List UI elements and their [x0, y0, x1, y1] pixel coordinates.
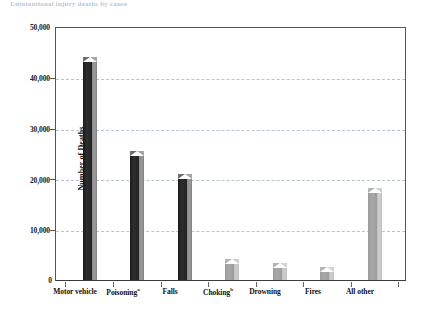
bar-front-face — [273, 268, 282, 280]
ytick-label-10000: 10,000 — [6, 226, 50, 235]
bar-side-face — [92, 62, 97, 281]
xcat-text: Falls — [162, 287, 177, 296]
ytick-mark-40000 — [50, 78, 55, 79]
gridline-40000 — [56, 79, 405, 80]
bar-front-face — [368, 193, 377, 280]
bar-side-face — [187, 179, 192, 280]
plot-area: Number of Deaths — [55, 27, 406, 281]
bar-side-face — [282, 268, 287, 280]
bar-front-face — [178, 179, 187, 280]
bar-side-face — [329, 272, 334, 280]
xcat-text: Choking — [203, 288, 230, 297]
ytick-mark-30000 — [50, 129, 55, 130]
xcat-label-all-other: All other — [324, 287, 396, 296]
ytick-label-50000: 50,000 — [6, 23, 50, 32]
xcat-text: All other — [346, 287, 374, 296]
gridline-10000 — [56, 231, 405, 232]
chart-figure: Unintentional injury deaths by cause — [0, 0, 426, 319]
bar-side-face — [234, 264, 239, 280]
bar-front-face — [130, 156, 139, 280]
xtick-7 — [398, 282, 399, 287]
bar-side-face — [139, 156, 144, 280]
ytick-mark-20000 — [50, 179, 55, 180]
ytick-label-0: 0 — [40, 276, 52, 285]
faint-title-text: Unintentional injury deaths by cause — [10, 0, 210, 12]
ytick-label-30000: 30,000 — [6, 125, 50, 134]
y-axis-title: Number of Deaths — [77, 79, 86, 239]
xcat-text: Poisoning — [106, 288, 137, 297]
xcat-text: Fires — [305, 287, 321, 296]
gridline-30000 — [56, 130, 405, 131]
bar-front-face — [320, 272, 329, 280]
bar-side-face — [377, 193, 382, 280]
ytick-mark-10000 — [50, 230, 55, 231]
ytick-label-40000: 40,000 — [6, 74, 50, 83]
bar-front-face — [225, 264, 234, 280]
ytick-label-20000: 20,000 — [6, 176, 50, 185]
gridline-20000 — [56, 180, 405, 181]
